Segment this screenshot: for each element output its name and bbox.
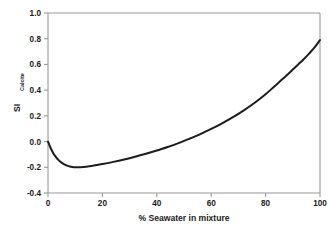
- y-tick-label: -0.4: [27, 189, 42, 198]
- y-tick-label: -0.2: [27, 163, 42, 172]
- x-tick-label: 20: [98, 199, 108, 208]
- y-tick-label: 0.6: [30, 60, 42, 69]
- x-tick-label: 80: [261, 199, 271, 208]
- y-tick-label: 0.2: [30, 112, 42, 121]
- y-tick-label: 0.4: [30, 86, 42, 95]
- y-tick-label: 0.0: [30, 138, 42, 147]
- y-axis-title-text: SI: [12, 104, 22, 112]
- x-axis-title-text: % Seawater in mixture: [138, 213, 229, 223]
- chart-background: [0, 0, 335, 231]
- x-tick-label: 100: [313, 199, 327, 208]
- calcite-saturation-line-chart: -0.4-0.20.00.20.40.60.81.0 020406080100 …: [0, 0, 335, 231]
- y-axis-title-subscript: Calcite: [19, 73, 25, 91]
- chart-figure: -0.4-0.20.00.20.40.60.81.0 020406080100 …: [0, 0, 335, 231]
- x-tick-label: 40: [152, 199, 162, 208]
- y-tick-label: 0.8: [30, 35, 42, 44]
- y-tick-label: 1.0: [30, 9, 42, 18]
- x-tick-label: 60: [207, 199, 217, 208]
- x-tick-label: 0: [46, 199, 51, 208]
